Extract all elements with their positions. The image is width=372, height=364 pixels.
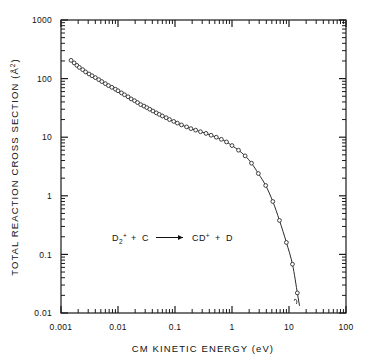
- reaction-reactant-1-sup: +: [123, 232, 127, 239]
- reaction-reactant-2: C: [142, 233, 149, 243]
- data-point: [237, 148, 241, 152]
- data-point: [264, 184, 268, 188]
- data-point: [175, 121, 179, 125]
- reaction-plus-2: +: [215, 233, 221, 243]
- data-point: [219, 137, 223, 141]
- figure-container: 0.0010.010.1110100 10001001010.10.01 CM …: [0, 0, 372, 364]
- data-point: [199, 130, 203, 134]
- y-tick-label: 0.01: [34, 308, 52, 318]
- data-point: [256, 172, 260, 176]
- data-point: [168, 118, 172, 122]
- data-point: [185, 125, 189, 129]
- data-point: [284, 241, 288, 245]
- data-point: [291, 262, 295, 266]
- cross-section-log-log-plot: 0.0010.010.1110100 10001001010.10.01 CM …: [0, 0, 372, 364]
- y-axis-title: TOTAL REACTION CROSS SECTION (Å2): [9, 58, 20, 276]
- data-point: [189, 127, 193, 131]
- y-tick-label: 1000: [32, 15, 52, 25]
- data-point: [230, 144, 234, 148]
- x-tick-label: 1: [229, 322, 234, 332]
- y-tick-label: 0.1: [39, 250, 52, 260]
- data-point: [250, 161, 254, 165]
- data-point: [194, 128, 198, 132]
- data-point: [214, 135, 218, 139]
- data-point: [160, 114, 164, 118]
- data-point: [278, 219, 282, 223]
- data-point: [243, 154, 247, 158]
- y-tick-label: 1: [47, 191, 52, 201]
- reaction-product-2: D: [226, 233, 233, 243]
- reaction-reactant-1-sub: 2: [119, 238, 123, 245]
- data-point: [225, 140, 229, 144]
- x-tick-label: 100: [338, 322, 353, 332]
- data-point: [209, 133, 213, 137]
- data-point: [295, 291, 299, 295]
- x-tick-label: 0.1: [169, 322, 182, 332]
- data-point: [204, 132, 208, 136]
- x-tick-label: 0.01: [109, 322, 127, 332]
- reaction-plus-1: +: [131, 233, 137, 243]
- reaction-product-1-sup: +: [206, 232, 210, 239]
- data-point: [180, 123, 184, 127]
- data-point: [271, 200, 275, 204]
- y-tick-label: 100: [37, 74, 52, 84]
- y-tick-label: 10: [42, 132, 52, 142]
- x-tick-label: 0.001: [50, 322, 73, 332]
- x-tick-label: 10: [284, 322, 294, 332]
- x-axis-title: CM KINETIC ENERGY (eV): [132, 343, 274, 354]
